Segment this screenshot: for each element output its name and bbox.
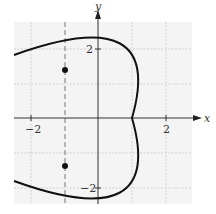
intersection-point-lower <box>62 163 68 169</box>
x-axis-arrow-icon <box>193 115 202 121</box>
x-tick-label-neg2: −2 <box>25 123 41 136</box>
y-tick-label-2: 2 <box>86 43 93 56</box>
x-tick-label-2: 2 <box>163 123 170 136</box>
x-axis-label: x <box>204 112 211 125</box>
y-axis-label: y <box>94 0 102 13</box>
parabola-chart: −2 2 2 −2 x y <box>0 0 216 214</box>
y-tick-label-neg2: −2 <box>80 182 96 195</box>
intersection-point-upper <box>62 67 68 73</box>
